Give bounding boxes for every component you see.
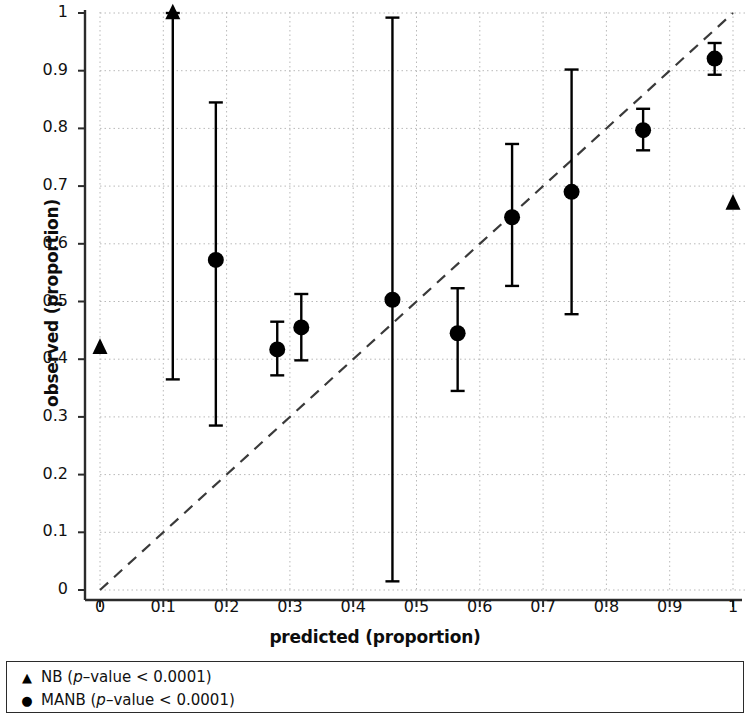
- y-tick-label: 1: [8, 2, 68, 21]
- legend-item-nb: ▲ NB (p–value < 0.0001): [19, 666, 212, 688]
- triangle-marker-icon: ▲: [19, 671, 35, 684]
- y-tick-label: 0: [8, 579, 68, 598]
- y-tick-label: 0.8: [8, 117, 68, 136]
- calibration-plot-figure: predicted (proportion) observed (proport…: [0, 0, 750, 717]
- x-tick-label: 0.1: [133, 597, 193, 616]
- data-point-circle: [384, 292, 400, 308]
- data-point-circle: [293, 319, 309, 335]
- x-tick-label: 1: [703, 597, 750, 616]
- x-tick-label: 0.8: [576, 597, 636, 616]
- circle-marker-icon: ●: [19, 694, 35, 707]
- x-tick-label: 0.7: [513, 597, 573, 616]
- data-point-circle: [450, 325, 466, 341]
- data-point-circle: [707, 51, 723, 67]
- y-tick-label: 0.6: [8, 233, 68, 252]
- x-tick-label: 0.6: [450, 597, 510, 616]
- series-manb: [208, 18, 723, 582]
- y-tick-label: 0.5: [8, 291, 68, 310]
- legend-manb-prefix: MANB (: [41, 691, 96, 709]
- x-tick-label: 0: [70, 597, 130, 616]
- x-tick-label: 0.5: [387, 597, 447, 616]
- x-tick-label: 0.3: [260, 597, 320, 616]
- legend-manb-italic-p: p: [96, 691, 106, 709]
- legend-label-nb: NB (p–value < 0.0001): [41, 668, 212, 686]
- data-point-triangle: [726, 194, 741, 210]
- x-tick-label: 0.9: [640, 597, 700, 616]
- legend: ▲ NB (p–value < 0.0001) ● MANB (p–value …: [6, 661, 744, 713]
- y-tick-label: 0.2: [8, 464, 68, 483]
- data-point-circle: [504, 209, 520, 225]
- legend-nb-suffix: –value < 0.0001): [83, 668, 212, 686]
- x-axis-title: predicted (proportion): [0, 627, 750, 647]
- x-tick-label: 0.4: [323, 597, 383, 616]
- y-tick-label: 0.7: [8, 175, 68, 194]
- y-tick-label: 0.4: [8, 348, 68, 367]
- legend-manb-suffix: –value < 0.0001): [106, 691, 235, 709]
- data-point-triangle: [93, 338, 108, 354]
- y-tick-label: 0.9: [8, 60, 68, 79]
- data-point-circle: [208, 252, 224, 268]
- y-tick-label: 0.1: [8, 521, 68, 540]
- legend-nb-italic-p: p: [73, 668, 83, 686]
- y-tick-label: 0.3: [8, 406, 68, 425]
- x-tick-label: 0.2: [197, 597, 257, 616]
- legend-item-manb: ● MANB (p–value < 0.0001): [19, 689, 235, 711]
- grid-lines: [100, 12, 745, 590]
- data-point-triangle: [165, 4, 180, 20]
- data-point-circle: [635, 122, 651, 138]
- legend-nb-prefix: NB (: [41, 668, 73, 686]
- legend-label-manb: MANB (p–value < 0.0001): [41, 691, 235, 709]
- data-point-circle: [269, 341, 285, 357]
- data-point-circle: [564, 184, 580, 200]
